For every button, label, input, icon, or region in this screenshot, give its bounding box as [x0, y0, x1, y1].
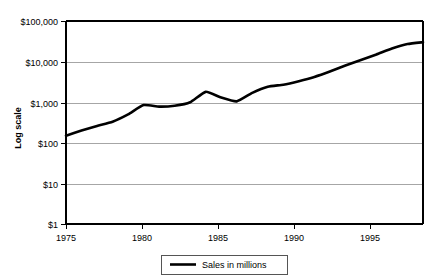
- x-tick-label-1990: 1990: [284, 233, 304, 243]
- x-tick-label-1980: 1980: [132, 233, 152, 243]
- y-tick-label-100000: $100,000: [20, 17, 58, 27]
- y-tick-label-10000: $10,000: [25, 58, 58, 68]
- chart-container: $100,000 $10,000 $1,000 $100 $10 $1 Log …: [0, 0, 441, 280]
- y-tick-label-1000: $1,000: [30, 99, 58, 109]
- y-axis-title: Log scale: [13, 107, 23, 149]
- y-tick-label-10: $10: [43, 180, 58, 190]
- x-axis-tick-labels: 1975 1980 1985 1990 1995: [56, 233, 380, 243]
- y-axis-tick-labels: $100,000 $10,000 $1,000 $100 $10 $1: [20, 17, 58, 230]
- x-tick-label-1985: 1985: [208, 233, 228, 243]
- x-tick-label-1975: 1975: [56, 233, 76, 243]
- chart-legend: Sales in millions: [161, 255, 287, 274]
- legend-label-sales-in-millions: Sales in millions: [202, 260, 267, 270]
- y-tick-label-1: $1: [48, 220, 58, 230]
- y-tick-label-100: $100: [38, 139, 58, 149]
- x-tick-label-1995: 1995: [360, 233, 380, 243]
- sales-log-scale-line-chart: $100,000 $10,000 $1,000 $100 $10 $1 Log …: [0, 0, 441, 280]
- plot-background: [66, 21, 423, 224]
